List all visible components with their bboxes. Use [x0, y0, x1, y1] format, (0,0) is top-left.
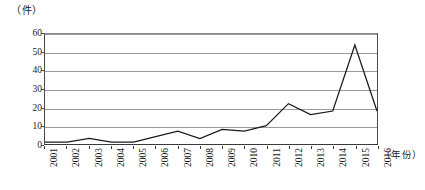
x-axis-tick-mark	[155, 146, 156, 149]
x-axis-tick-mark	[66, 146, 67, 149]
x-axis-tick-label: 2012	[294, 148, 304, 167]
x-axis-tick-mark	[333, 146, 334, 149]
series-line-path	[45, 45, 377, 142]
x-axis-tick-label: 2008	[205, 148, 215, 167]
x-axis-tick-label: 2010	[249, 148, 259, 167]
plot-area	[44, 33, 378, 145]
x-axis-tick-label: 2003	[94, 148, 104, 167]
x-axis-tick-label: 2013	[316, 148, 326, 167]
x-axis-tick-label: 2011	[272, 148, 282, 167]
x-axis-tick-mark	[289, 146, 290, 149]
y-axis-tick-label: 20	[2, 103, 42, 113]
y-axis-tick-label: 60	[2, 28, 42, 38]
x-axis-tick-mark	[222, 146, 223, 149]
x-axis-tick-mark	[378, 146, 379, 149]
x-axis-tick-label: 2004	[116, 148, 126, 167]
y-axis-tick-label: 10	[2, 121, 42, 131]
x-axis-tick-mark	[111, 146, 112, 149]
x-axis-tick-mark	[311, 146, 312, 149]
x-axis-tick-label: 2002	[71, 148, 81, 167]
y-axis-tick-label: 0	[2, 140, 42, 150]
x-axis-tick-mark	[133, 146, 134, 149]
x-axis-tick-label: 2007	[183, 148, 193, 167]
x-axis-tick-label: 2009	[227, 148, 237, 167]
x-axis-tick-label: 2014	[338, 148, 348, 167]
line-chart: （件） 0102030405060 2001200220032004200520…	[0, 0, 425, 190]
x-axis-tick-label: 2001	[49, 148, 59, 167]
x-axis-tick-mark	[244, 146, 245, 149]
x-axis-tick-label: 2015	[361, 148, 371, 167]
x-axis-tick-label: 2006	[160, 148, 170, 167]
series-line-svg	[45, 34, 377, 144]
x-axis-tick-mark	[89, 146, 90, 149]
x-axis-tick-mark	[267, 146, 268, 149]
x-axis-tick-mark	[356, 146, 357, 149]
x-axis-tick-labels: 2001200220032004200520062007200820092010…	[44, 146, 378, 190]
y-axis-unit-label: （件）	[11, 5, 43, 17]
x-axis-tick-mark	[44, 146, 45, 149]
y-axis-tick-label: 40	[2, 65, 42, 75]
y-axis-tick-label: 30	[2, 84, 42, 94]
x-axis-unit-label: （年份）	[381, 150, 422, 161]
x-axis-tick-label: 2005	[138, 148, 148, 167]
x-axis-tick-mark	[200, 146, 201, 149]
y-axis-tick-label: 50	[2, 47, 42, 57]
y-axis-tick-labels: 0102030405060	[0, 33, 42, 145]
x-axis-tick-mark	[178, 146, 179, 149]
